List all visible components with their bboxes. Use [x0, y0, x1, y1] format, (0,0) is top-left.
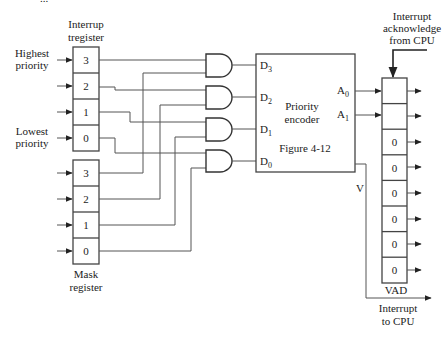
ack-label-3: from CPU — [389, 34, 435, 46]
ack-arrow — [393, 50, 427, 77]
interrupt-priority-diagram: ... Interrup tregister Highest priority … — [0, 0, 448, 340]
highest-priority-label: Highest — [15, 47, 49, 59]
mask-bit-2: 2 — [83, 193, 89, 205]
interrupt-bit-0: 0 — [83, 132, 89, 144]
vad-label: VAD — [385, 284, 407, 296]
interrupt-bit-2: 2 — [83, 80, 89, 92]
interrupt-register-title: Interrup — [68, 18, 104, 30]
interrupt-bit-1: 1 — [83, 106, 89, 118]
priority-encoder: D3 D2 D1 D0 A0 A1 Priority encoder Figur… — [256, 54, 355, 172]
and-gate-3 — [206, 54, 232, 77]
interrupt-to-cpu-label: Interrupt — [379, 302, 417, 314]
vad-bit: 0 — [392, 136, 398, 148]
mask-register: 3 2 1 0 — [73, 160, 99, 264]
interrupt-bit-3: 3 — [83, 54, 89, 66]
top-caption-partial: ... — [40, 0, 49, 4]
mask-bit-0: 0 — [83, 245, 89, 257]
mask-bit-1: 1 — [83, 219, 89, 231]
encoder-figure-ref: Figure 4-12 — [279, 142, 331, 154]
encoder-title-2: encoder — [285, 113, 320, 125]
interrupt-register-title-2: tregister — [68, 31, 104, 43]
valid-label: V — [356, 182, 364, 194]
vad-register: 0 0 0 0 0 0 — [382, 78, 407, 283]
mask-wires — [99, 73, 206, 251]
vad-bit: 0 — [392, 238, 398, 250]
interrupt-register: 3 2 1 0 — [73, 47, 99, 151]
interrupt-to-cpu-label-2: to CPU — [382, 315, 415, 327]
mask-register-title: Mask — [74, 268, 99, 280]
vad-bit: 0 — [392, 162, 398, 174]
encoder-title: Priority — [285, 100, 319, 112]
mask-input-arrows — [57, 173, 72, 251]
mask-bit-3: 3 — [83, 167, 89, 179]
and-gate-1 — [206, 118, 232, 141]
ack-label: Interrupt — [393, 10, 431, 22]
vad-output-arrows — [407, 91, 421, 270]
interrupt-input-arrows — [57, 60, 72, 138]
vad-bit: 0 — [392, 213, 398, 225]
and-gate-0 — [206, 150, 232, 172]
address-wires — [355, 91, 381, 115]
vad-bit: 0 — [392, 264, 398, 276]
and-gate-2 — [206, 86, 232, 109]
mask-register-title-2: register — [70, 281, 103, 293]
interrupt-wires — [99, 60, 206, 153]
lowest-priority-label: Lowest — [16, 125, 48, 137]
lowest-priority-label-2: priority — [16, 137, 49, 149]
highest-priority-label-2: priority — [16, 59, 49, 71]
ack-label-2: acknowledge — [383, 22, 441, 34]
vad-bit: 0 — [392, 187, 398, 199]
and-gates — [206, 54, 256, 172]
